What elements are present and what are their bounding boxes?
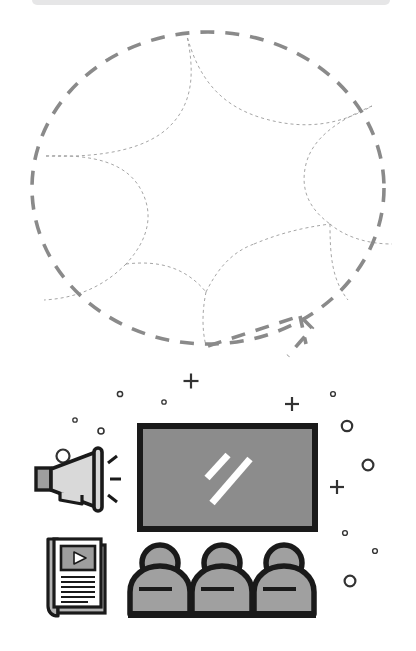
divider-right-lower — [330, 224, 392, 244]
megaphone-sound-rays — [108, 456, 121, 502]
audience-group — [128, 545, 316, 618]
illustration-panel — [0, 360, 416, 651]
decor-circle — [57, 450, 70, 463]
plus-icon — [184, 374, 199, 389]
divider-center-right-link — [254, 224, 330, 244]
divider-bottom-right — [330, 224, 348, 300]
magazine-icon — [48, 539, 105, 616]
megaphone-back-block — [36, 468, 51, 490]
decor-circle — [345, 576, 356, 587]
megaphone-lip — [94, 448, 102, 511]
audience-figure — [192, 545, 252, 614]
decor-circle — [98, 428, 104, 434]
segment-dividers — [44, 32, 392, 346]
decor-circle — [363, 460, 374, 471]
divider-bottom-stem — [203, 292, 206, 346]
audience-figure — [254, 545, 314, 614]
divider-right-upper — [304, 106, 372, 224]
plus-icon — [330, 480, 344, 494]
divider-bottom-center-left — [126, 263, 206, 292]
divider-bottom-center-right — [206, 244, 254, 292]
audience-figure — [130, 545, 190, 614]
decor-circle — [331, 392, 336, 397]
diagram-panel — [0, 12, 416, 360]
screen-frame — [140, 426, 315, 529]
decor-circle — [373, 549, 378, 554]
decor-circle — [117, 391, 122, 396]
audience-base-bar — [128, 611, 316, 618]
decor-circle — [162, 400, 166, 404]
divider-left — [46, 156, 148, 264]
segmented-dashed-circle — [0, 12, 416, 360]
divider-top-left — [46, 32, 191, 156]
decor-circle — [342, 421, 352, 431]
decor-circle — [73, 418, 77, 422]
presentation-screen — [140, 426, 315, 529]
decor-circle — [343, 531, 348, 536]
megaphone-icon — [36, 448, 121, 511]
plus-icon — [285, 397, 299, 411]
outer-dashed-circle — [32, 32, 384, 344]
media-presentation-illustration — [0, 360, 416, 651]
page-root — [0, 0, 416, 651]
top-status-bar — [32, 0, 390, 5]
